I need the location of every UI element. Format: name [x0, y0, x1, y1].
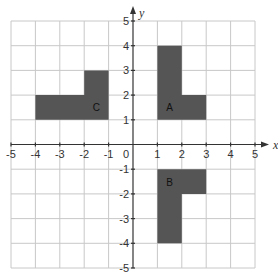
y-tick-label: 3 [123, 64, 129, 76]
y-tick-label: -2 [119, 188, 129, 200]
y-axis-arrow-icon [130, 6, 136, 14]
y-tick-label: -5 [119, 262, 129, 274]
x-tick-label: -1 [104, 148, 114, 160]
shape-label-b: B [166, 177, 173, 188]
x-tick-label: -2 [79, 148, 89, 160]
shape-b [157, 169, 206, 243]
y-tick-label: -3 [119, 213, 129, 225]
y-tick-label: 5 [123, 15, 129, 27]
y-tick-label: 1 [123, 114, 129, 126]
x-axis-arrow-icon [261, 142, 269, 148]
y-tick-label: -1 [119, 163, 129, 175]
shape-a [157, 46, 206, 120]
x-tick-label: 5 [252, 148, 258, 160]
x-tick-label: 1 [154, 148, 160, 160]
x-tick-label: -4 [31, 148, 41, 160]
y-tick-label: -4 [119, 237, 129, 249]
x-tick-label: -5 [6, 148, 16, 160]
x-tick-label: 2 [179, 148, 185, 160]
coordinate-grid: ABC xy-5-4-3-2-112345-5-4-3-2-1123450 [0, 0, 278, 280]
shape-label-a: A [166, 102, 173, 113]
shape-label-c: C [93, 102, 100, 113]
x-tick-label: -3 [55, 148, 65, 160]
x-tick-label: 4 [228, 148, 234, 160]
y-tick-label: 2 [123, 89, 129, 101]
origin-label: 0 [123, 148, 129, 160]
x-axis-label: x [272, 138, 278, 152]
y-tick-label: 4 [123, 40, 129, 52]
y-axis-label: y [138, 6, 145, 20]
x-tick-label: 3 [203, 148, 209, 160]
